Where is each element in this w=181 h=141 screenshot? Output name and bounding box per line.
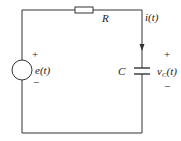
voltage-source-symbol bbox=[12, 60, 32, 80]
current-arrow-icon bbox=[140, 44, 145, 51]
current-label: i(t) bbox=[145, 11, 159, 24]
capacitor-plus-sign: + bbox=[164, 48, 170, 60]
source-minus-sign: − bbox=[33, 76, 39, 88]
capacitor-minus-sign: − bbox=[164, 80, 170, 92]
capacitor-voltage-label: vC(t) bbox=[157, 65, 177, 79]
resistor-symbol bbox=[75, 7, 93, 13]
circuit-diagram: R i(t) + e(t) − C + vC(t) − bbox=[0, 0, 181, 141]
source-plus-sign: + bbox=[32, 48, 38, 60]
capacitor-label: C bbox=[118, 65, 126, 77]
resistor-label: R bbox=[101, 12, 109, 24]
